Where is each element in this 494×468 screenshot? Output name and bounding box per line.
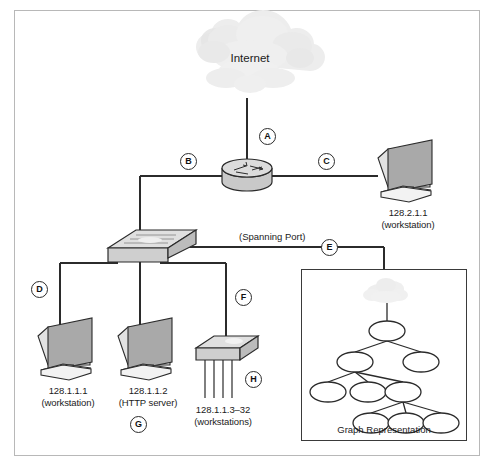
graph-edge — [403, 402, 406, 413]
graph-edge — [387, 341, 421, 352]
graph-node — [385, 382, 421, 402]
graph-cloud-icon — [363, 278, 408, 303]
graph-edge — [328, 372, 355, 382]
graph-edge — [403, 402, 441, 413]
graph-edge — [371, 402, 403, 413]
graph-node — [403, 352, 439, 372]
graph-representation-layer — [0, 0, 494, 468]
network-diagram-figure: Internet — [0, 0, 494, 468]
graph-node — [310, 382, 346, 402]
graph-node — [369, 321, 405, 341]
graph-node — [337, 352, 373, 372]
graph-edge — [355, 341, 387, 352]
graph-representation-caption: Graph Representation — [314, 424, 454, 435]
graph-node — [350, 382, 386, 402]
graph-tree-nodes — [310, 321, 459, 433]
